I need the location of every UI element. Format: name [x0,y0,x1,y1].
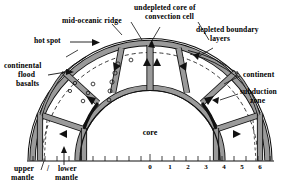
lower-mantle-leader [61,146,67,165]
upper-mantle-guide-left [44,120,47,161]
label-hot-spot: hot spot [34,37,61,46]
label-depleted-boundary-line2: layers [210,35,230,44]
label-lower-mantle-line2: mantle [55,174,78,183]
axis-tick-6: 6 [255,163,265,171]
axis-tick-5: 5 [237,163,247,171]
label-continent: continent [243,71,274,80]
flow-arrow-lower-right [233,130,241,138]
label-mantle-separator: / [47,165,49,174]
subduction-arrowhead [212,97,219,104]
axis-tick-0: 0 [145,163,155,171]
label-subduction-line2: zone [250,97,265,106]
axis-tick-2: 2 [183,163,193,171]
label-undepleted-core-line2: convection cell [145,13,194,22]
axis-tick-4: 4 [219,163,229,171]
label-core: core [130,128,170,137]
upper-mantle-guide-right [253,120,256,161]
label-upper-mantle-line2: mantle [11,174,34,183]
cell-wall-far-right [217,115,259,129]
axis-tick-1: 1 [165,163,175,171]
flow-arrow-lower-left [59,130,67,138]
hot-spot-leader [70,39,100,46]
axis-tick-3: 3 [201,163,211,171]
label-continental-flood-basalts-line3: basalts [16,80,39,89]
flow-arrow-ridge-right [153,58,161,66]
label-mid-oceanic-ridge: mid-oceanic ridge [62,17,122,26]
